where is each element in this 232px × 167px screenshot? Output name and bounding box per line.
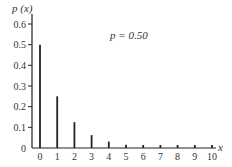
x-tick-label: 6 bbox=[141, 151, 146, 162]
x-tick-label: 5 bbox=[124, 151, 129, 162]
y-tick-label: 0.1 bbox=[14, 122, 27, 133]
y-axis-label: p (x) bbox=[12, 2, 32, 14]
y-tick-label: 0 bbox=[21, 143, 26, 154]
x-axis-label: x bbox=[218, 141, 223, 153]
x-tick-label: 3 bbox=[89, 151, 94, 162]
parameter-annotation: p = 0.50 bbox=[110, 29, 148, 41]
y-tick-label: 0.5 bbox=[14, 39, 27, 50]
x-tick-label: 4 bbox=[106, 151, 111, 162]
y-tick-label: 0.2 bbox=[14, 101, 27, 112]
y-tick-label: 0.6 bbox=[14, 19, 27, 30]
x-tick-label: 7 bbox=[158, 151, 163, 162]
y-tick-label: 0.3 bbox=[14, 81, 27, 92]
x-tick-label: 2 bbox=[72, 151, 77, 162]
x-tick-label: 8 bbox=[175, 151, 180, 162]
x-tick-label: 1 bbox=[55, 151, 60, 162]
y-tick-label: 0.4 bbox=[14, 60, 27, 71]
x-tick-label: 0 bbox=[38, 151, 43, 162]
x-tick-label: 10 bbox=[207, 151, 217, 162]
chart-canvas: 00.10.20.30.40.50.6012345678910 bbox=[0, 0, 232, 167]
x-tick-label: 9 bbox=[192, 151, 197, 162]
